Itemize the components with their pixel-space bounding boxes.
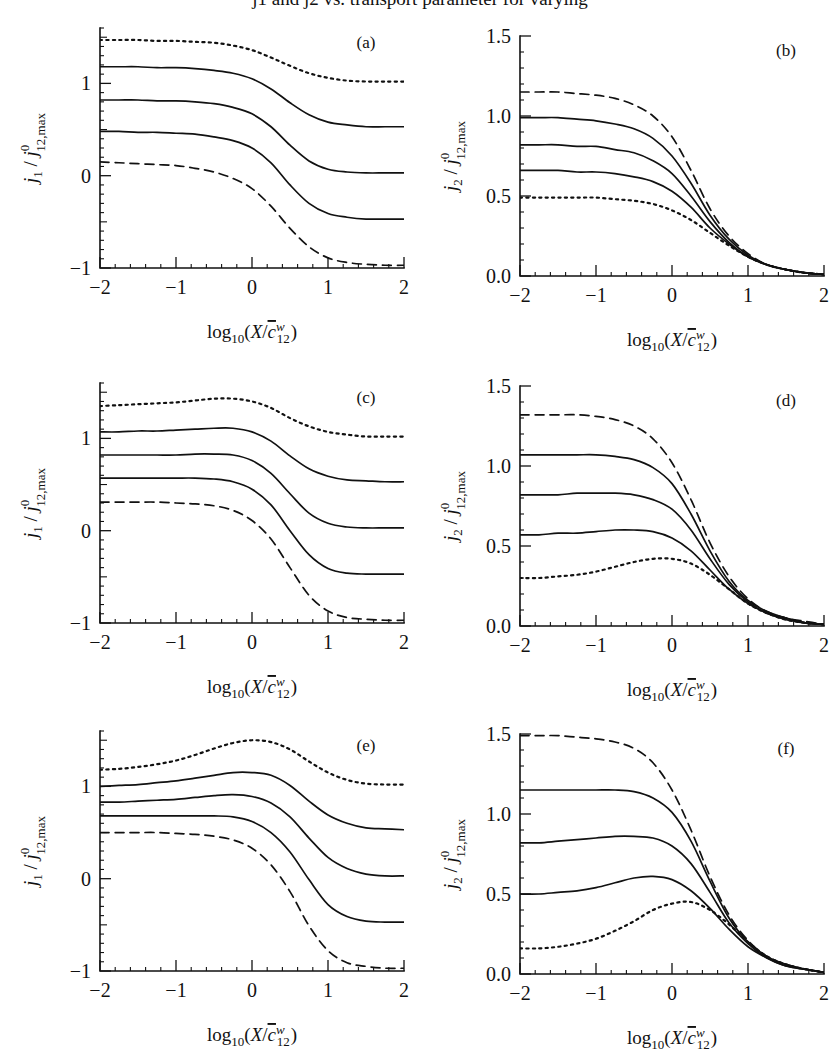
y-tick-label: 0 bbox=[81, 520, 91, 542]
x-tick-label: −2 bbox=[509, 982, 530, 1004]
y-tick-label: 1.0 bbox=[486, 105, 511, 127]
x-tick-label: −1 bbox=[585, 982, 606, 1004]
x-tick-label: 0 bbox=[667, 982, 677, 1004]
y-axis-title: j2 / j012,max bbox=[437, 819, 468, 892]
panel-c: −2−1012−101(c)log10(X/cw12)j1 / j012,max bbox=[0, 355, 420, 710]
x-tick-label: −2 bbox=[89, 979, 110, 1001]
x-tick-label: 2 bbox=[819, 982, 829, 1004]
series-f-dashed-top bbox=[520, 735, 824, 972]
figure-root: j1 and j2 vs. transport parameter for va… bbox=[0, 0, 840, 1064]
x-axis-title: log10(X/cw12) bbox=[207, 319, 297, 346]
series-d-dashed-top bbox=[520, 415, 824, 625]
chart-e: −2−1012−101(e)log10(X/cw12)j1 / j012,max bbox=[0, 703, 420, 1058]
y-tick-label: 1.0 bbox=[486, 455, 511, 477]
panel-letter-d: (d) bbox=[776, 391, 796, 410]
y-tick-label: −1 bbox=[70, 612, 91, 634]
x-ticks-b bbox=[520, 265, 824, 276]
y-axis-title: j2 / j012,max bbox=[437, 121, 468, 194]
y-tick-label: 0.0 bbox=[486, 963, 511, 985]
x-tick-label: 2 bbox=[399, 276, 409, 298]
x-tick-label: 0 bbox=[667, 634, 677, 656]
x-axis-title: log10(X/cw12) bbox=[627, 1025, 717, 1052]
y-ticks-d bbox=[520, 386, 531, 626]
y-ticks-c bbox=[100, 383, 111, 623]
panel-f: −2−10120.00.51.01.5(f)log10(X/cw12)j2 / … bbox=[420, 706, 840, 1061]
x-tick-label: 1 bbox=[323, 979, 333, 1001]
chart-f: −2−10120.00.51.01.5(f)log10(X/cw12)j2 / … bbox=[420, 706, 840, 1061]
x-tick-label: −2 bbox=[89, 276, 110, 298]
axes-f bbox=[520, 734, 824, 974]
series-a-solid-3 bbox=[100, 131, 404, 219]
chart-d: −2−10120.00.51.01.5(d)log10(X/cw12)j2 / … bbox=[420, 358, 840, 713]
series-group-c bbox=[100, 398, 404, 620]
y-axis-title: j1 / j012,max bbox=[17, 113, 48, 186]
panel-a: −2−1012−101(a)log10(X/cw12)j1 / j012,max bbox=[0, 0, 420, 355]
y-tick-label: 1 bbox=[81, 775, 91, 797]
x-ticks-a bbox=[100, 257, 404, 268]
x-tick-label: −2 bbox=[89, 631, 110, 653]
x-ticks-c bbox=[100, 612, 404, 623]
series-group-f bbox=[520, 735, 824, 972]
chart-c: −2−1012−101(c)log10(X/cw12)j1 / j012,max bbox=[0, 355, 420, 710]
series-f-solid-3 bbox=[520, 876, 824, 972]
series-e-solid-2 bbox=[100, 795, 404, 876]
panel-b: −2−10120.00.51.01.5(b)log10(X/cw12)j2 / … bbox=[420, 8, 840, 363]
panel-letter-c: (c) bbox=[357, 388, 376, 407]
axes-c bbox=[100, 383, 404, 623]
x-tick-label: 1 bbox=[323, 631, 333, 653]
chart-b: −2−10120.00.51.01.5(b)log10(X/cw12)j2 / … bbox=[420, 8, 840, 363]
series-b-solid-3 bbox=[520, 170, 824, 274]
y-tick-label: 0.5 bbox=[486, 883, 511, 905]
y-tick-label: 1 bbox=[81, 427, 91, 449]
panel-letter-e: (e) bbox=[357, 736, 376, 755]
x-ticks-f bbox=[520, 963, 824, 974]
y-tick-label: 1.5 bbox=[486, 25, 511, 47]
x-tick-label: 0 bbox=[247, 631, 257, 653]
x-tick-label: −1 bbox=[165, 979, 186, 1001]
y-tick-label: −1 bbox=[70, 960, 91, 982]
x-axis-title: log10(X/cw12) bbox=[627, 327, 717, 354]
x-tick-label: 1 bbox=[743, 284, 753, 306]
x-tick-label: 1 bbox=[743, 982, 753, 1004]
x-tick-label: −1 bbox=[165, 276, 186, 298]
y-tick-label: 0 bbox=[81, 868, 91, 890]
series-c-solid-2 bbox=[100, 454, 404, 528]
axes-d bbox=[520, 386, 824, 626]
x-axis-title: log10(X/cw12) bbox=[207, 674, 297, 701]
series-group-b bbox=[520, 92, 824, 275]
panel-letter-b: (b) bbox=[776, 41, 796, 60]
y-ticks-a bbox=[100, 28, 111, 268]
panel-letter-f: (f) bbox=[778, 739, 795, 758]
y-tick-label: 0.5 bbox=[486, 535, 511, 557]
series-b-dotted-bottom bbox=[520, 197, 824, 274]
panel-letter-a: (a) bbox=[357, 33, 376, 52]
series-d-solid-3 bbox=[520, 530, 824, 625]
y-ticks-b bbox=[520, 36, 531, 276]
y-axis-title: j1 / j012,max bbox=[17, 816, 48, 889]
chart-a: −2−1012−101(a)log10(X/cw12)j1 / j012,max bbox=[0, 0, 420, 355]
y-axis-title: j1 / j012,max bbox=[17, 468, 48, 541]
panel-e: −2−1012−101(e)log10(X/cw12)j1 / j012,max bbox=[0, 703, 420, 1058]
x-tick-label: 0 bbox=[667, 284, 677, 306]
x-tick-label: −1 bbox=[165, 631, 186, 653]
x-tick-label: 1 bbox=[743, 634, 753, 656]
y-tick-label: 0.0 bbox=[486, 615, 511, 637]
x-tick-label: 0 bbox=[247, 276, 257, 298]
x-tick-label: 2 bbox=[399, 631, 409, 653]
y-ticks-e bbox=[100, 731, 111, 971]
y-tick-label: 1.5 bbox=[486, 723, 511, 745]
series-b-dashed-top bbox=[520, 92, 824, 275]
x-tick-label: 2 bbox=[399, 979, 409, 1001]
x-axis-title: log10(X/cw12) bbox=[627, 677, 717, 704]
x-tick-label: 0 bbox=[247, 979, 257, 1001]
x-tick-label: −1 bbox=[585, 284, 606, 306]
x-axis-title: log10(X/cw12) bbox=[207, 1022, 297, 1049]
series-group-d bbox=[520, 415, 824, 625]
series-c-dashed-bottom bbox=[100, 502, 404, 620]
y-tick-label: 1.5 bbox=[486, 375, 511, 397]
series-c-solid-3 bbox=[100, 478, 404, 574]
series-d-dotted-bottom bbox=[520, 558, 824, 624]
series-e-dashed-bottom bbox=[100, 832, 404, 968]
y-tick-label: 0 bbox=[81, 165, 91, 187]
panel-d: −2−10120.00.51.01.5(d)log10(X/cw12)j2 / … bbox=[420, 358, 840, 713]
